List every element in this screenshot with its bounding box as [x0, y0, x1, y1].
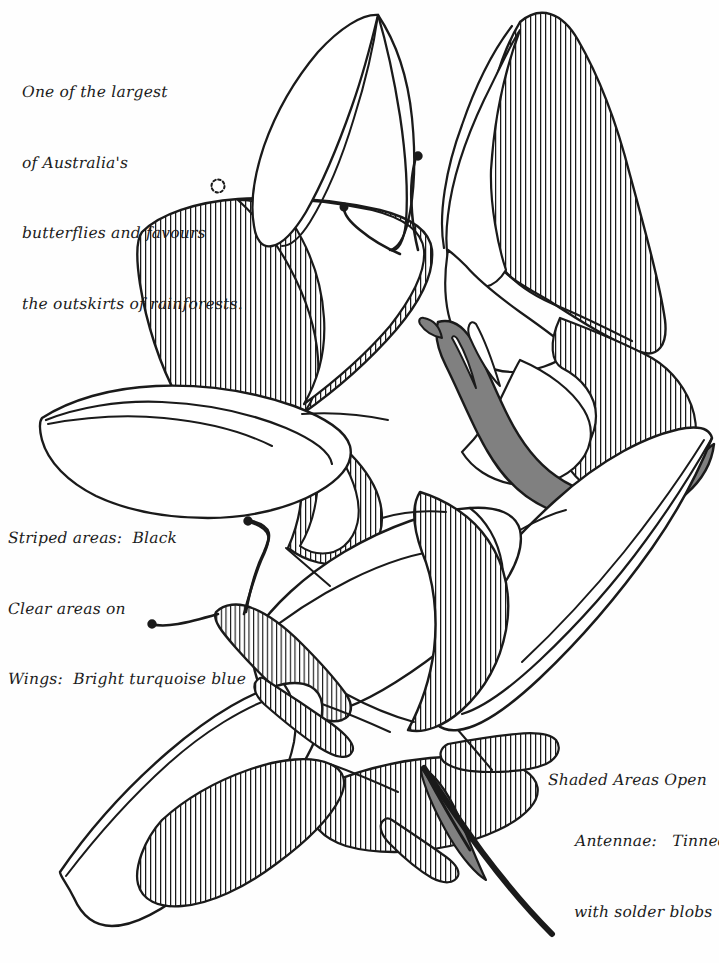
color-key-line-2: Clear areas on — [8, 598, 246, 622]
color-key-line-1: Striped areas: Black — [8, 527, 246, 551]
intro-line-2: of Australia's — [22, 152, 243, 176]
intro-line-4: the outskirts of rainforests. — [22, 293, 243, 317]
stem-right-upper — [441, 733, 559, 772]
species-description-text: One of the largest of Australia's butter… — [22, 34, 243, 364]
materials-line-2: with solder blobs — [574, 901, 719, 925]
intro-line-1: One of the largest — [22, 81, 243, 105]
antenna-lower-upper — [244, 518, 269, 614]
color-key-line-3: Wings: Bright turquoise blue — [8, 668, 246, 692]
color-key-text: Striped areas: Black Clear areas on Wing… — [8, 480, 246, 739]
materials-key-text: Antennae: Tinned wire with solder blobs … — [575, 783, 719, 963]
intro-line-3: butterflies and favours — [22, 222, 243, 246]
materials-line-1: Antennae: Tinned wire — [575, 830, 719, 854]
pattern-canvas: One of the largest of Australia's butter… — [0, 0, 719, 963]
